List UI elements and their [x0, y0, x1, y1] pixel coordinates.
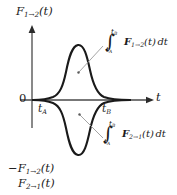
tick-label-tb-subscript: B [106, 108, 111, 116]
y-axis-label-reversed-subscript: 2→1 [26, 182, 41, 191]
y-axis-label-reversed-symbol: F [18, 176, 26, 190]
upper-integral-lower-limit: tA [106, 47, 112, 54]
y-axis-label-negative: −F1→2(t) [8, 163, 54, 175]
integral-sign-icon: ∫ tB tA [105, 34, 115, 50]
curve-f1to2 [33, 45, 130, 100]
lower-integral-integrand: F2→1(t)dt [122, 128, 166, 139]
y-axis-label-negative-subscript: 1→2 [26, 167, 41, 176]
integral-sign-icon-lower: ∫ tB tA [103, 126, 113, 142]
tick-label-ta: tA [38, 103, 47, 115]
upper-integral-upper-limit: tB [111, 29, 117, 36]
y-axis-label-negative-symbol: −F [8, 161, 26, 175]
upper-integral-expression: ∫ tB tA F1→2(t)dt [105, 34, 168, 50]
lower-integrand-arg: (t) [142, 128, 154, 139]
upper-integrand-arg: (t) [144, 36, 156, 47]
force-impulse-figure: F1→2(t) −F1→2(t) F2→1(t) 0 t tA tB ∫ tB … [0, 0, 177, 195]
lower-integral-expression: ∫ tB tA F2→1(t)dt [103, 126, 166, 142]
lower-integrand-symbol: F [122, 128, 129, 139]
upper-integral-differential: dt [157, 36, 167, 47]
lower-integral-differential: dt [155, 128, 165, 139]
y-axis-label-top: F1→2(t) [16, 6, 53, 18]
tick-label-tb: tB [102, 103, 111, 115]
lower-integrand-subscript: 2→1 [129, 132, 142, 139]
y-axis [29, 25, 36, 128]
annotation-lower-integral: ∫ tB tA F2→1(t)dt [103, 126, 166, 142]
leader-line-lower [78, 113, 103, 138]
x-axis-label: t [156, 92, 161, 104]
upper-integral-integrand: F1→2(t)dt [124, 36, 168, 47]
upper-integrand-subscript: 1→2 [131, 40, 144, 47]
y-axis-label-reversed-arg: (t) [41, 176, 55, 190]
lower-integral-lower-limit: tA [104, 139, 110, 146]
annotation-upper-integral: ∫ tB tA F1→2(t)dt [105, 34, 168, 50]
y-axis-label-negative-arg: (t) [41, 161, 55, 175]
y-axis-label-top-symbol: F [16, 4, 24, 18]
tick-label-ta-subscript: A [42, 108, 47, 116]
y-axis-label-top-subscript: 1→2 [24, 10, 39, 19]
y-axis-label-top-arg: (t) [39, 4, 53, 18]
lower-integral-upper-limit: tB [109, 121, 115, 128]
origin-label: 0 [19, 93, 26, 105]
upper-integrand-symbol: F [124, 36, 131, 47]
y-axis-label-reversed: F2→1(t) [18, 178, 55, 190]
